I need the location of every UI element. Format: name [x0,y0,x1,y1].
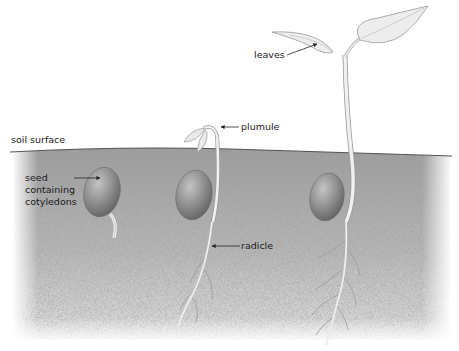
label-seed-cotyledons: cotyledons [25,196,77,207]
label-radicle: radicle [241,240,273,251]
label-soil-surface: soil surface [11,134,65,145]
label-seed-containing: containing [25,184,75,195]
soil [10,148,455,345]
label-leaves: leaves [254,49,285,60]
label-seed: seed [25,172,48,183]
germination-diagram [0,0,459,351]
label-plumule: plumule [241,121,279,132]
leaves-pointer [287,44,317,55]
